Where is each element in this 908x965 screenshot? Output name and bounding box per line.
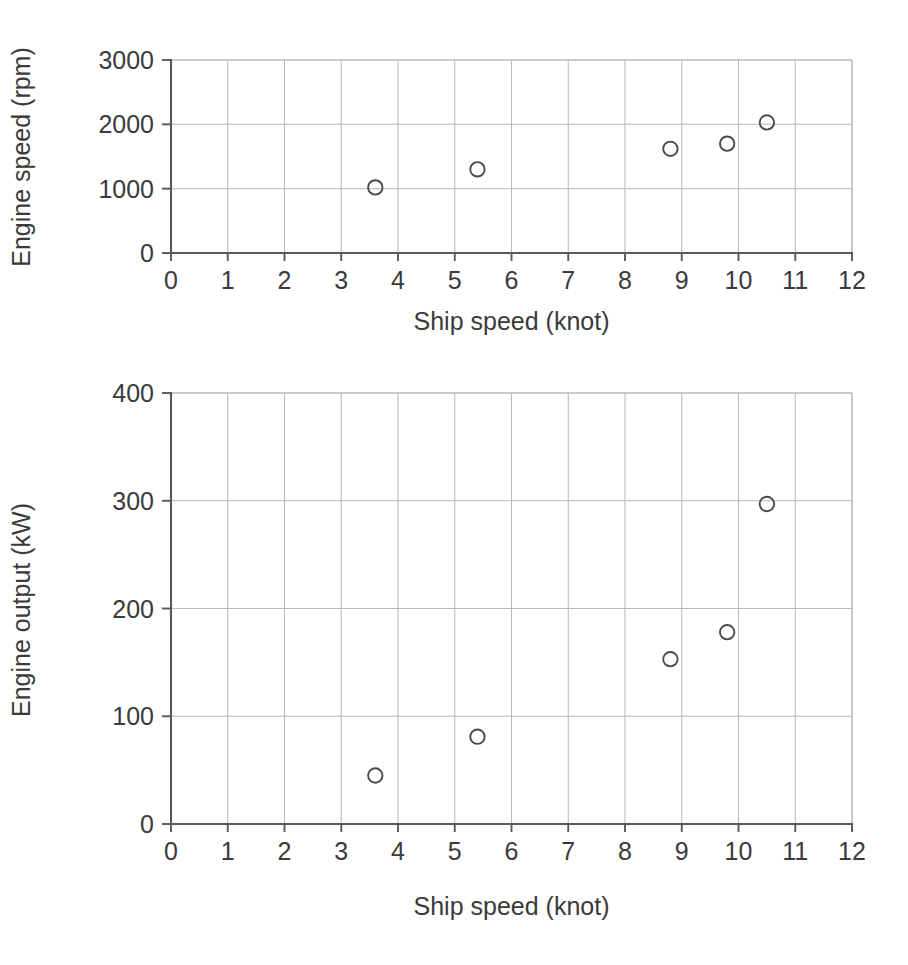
- y-axis: 0100020003000: [98, 46, 171, 267]
- series-engine-output: [368, 497, 774, 783]
- x-axis: 0123456789101112: [164, 824, 866, 865]
- data-point: [663, 142, 677, 156]
- x-tick-label: 5: [448, 837, 462, 865]
- x-tick-label: 0: [164, 837, 178, 865]
- y-tick-label: 100: [112, 702, 154, 730]
- gridlines: [171, 60, 852, 253]
- x-tick-label: 12: [838, 266, 866, 294]
- x-tick-label: 9: [675, 266, 689, 294]
- y-axis: 0100200300400: [112, 379, 171, 838]
- x-tick-label: 10: [725, 837, 753, 865]
- x-tick-label: 4: [391, 837, 405, 865]
- data-point: [760, 115, 774, 129]
- y-tick-label: 300: [112, 487, 154, 515]
- x-tick-label: 11: [782, 266, 808, 294]
- x-tick-label: 2: [278, 837, 292, 865]
- data-point: [470, 730, 484, 744]
- x-tick-label: 5: [448, 266, 462, 294]
- chart-engine-speed: 01234567891011120100020003000Ship speed …: [0, 0, 908, 360]
- x-tick-label: 4: [391, 266, 405, 294]
- plot-area-engine-output-vs-ship-speed: 01234567891011120100200300400Ship speed …: [0, 360, 908, 965]
- y-axis-label: Engine speed (rpm): [7, 47, 35, 267]
- x-tick-label: 10: [725, 266, 753, 294]
- x-axis-label: Ship speed (knot): [414, 892, 610, 920]
- y-tick-label: 3000: [98, 46, 154, 74]
- x-axis: 0123456789101112: [164, 253, 866, 294]
- x-tick-label: 8: [618, 837, 632, 865]
- data-point: [720, 136, 734, 150]
- x-tick-label: 11: [782, 837, 808, 865]
- x-tick-label: 8: [618, 266, 632, 294]
- y-tick-label: 200: [112, 595, 154, 623]
- x-tick-label: 0: [164, 266, 178, 294]
- gridlines: [171, 393, 852, 824]
- x-tick-label: 1: [221, 266, 235, 294]
- x-tick-label: 3: [334, 837, 348, 865]
- chart-engine-output: 01234567891011120100200300400Ship speed …: [0, 360, 908, 965]
- data-point: [663, 652, 677, 666]
- y-tick-label: 400: [112, 379, 154, 407]
- x-tick-label: 9: [675, 837, 689, 865]
- data-point: [720, 625, 734, 639]
- y-tick-label: 0: [140, 810, 154, 838]
- data-point: [368, 180, 382, 194]
- x-tick-label: 2: [278, 266, 292, 294]
- x-axis-label: Ship speed (knot): [414, 307, 610, 335]
- y-tick-label: 0: [140, 239, 154, 267]
- y-tick-label: 1000: [98, 175, 154, 203]
- y-tick-label: 2000: [98, 110, 154, 138]
- data-point: [760, 497, 774, 511]
- series-engine-speed: [368, 115, 774, 194]
- x-tick-label: 6: [505, 837, 519, 865]
- y-axis-label: Engine output (kW): [7, 503, 35, 717]
- x-tick-label: 3: [334, 266, 348, 294]
- x-tick-label: 1: [221, 837, 235, 865]
- plot-area-engine-speed-vs-ship-speed: 01234567891011120100020003000Ship speed …: [0, 0, 908, 360]
- x-tick-label: 7: [561, 266, 575, 294]
- chart-page: 01234567891011120100020003000Ship speed …: [0, 0, 908, 965]
- x-tick-label: 7: [561, 837, 575, 865]
- x-tick-label: 12: [838, 837, 866, 865]
- x-tick-label: 6: [505, 266, 519, 294]
- data-point: [368, 768, 382, 782]
- data-point: [470, 162, 484, 176]
